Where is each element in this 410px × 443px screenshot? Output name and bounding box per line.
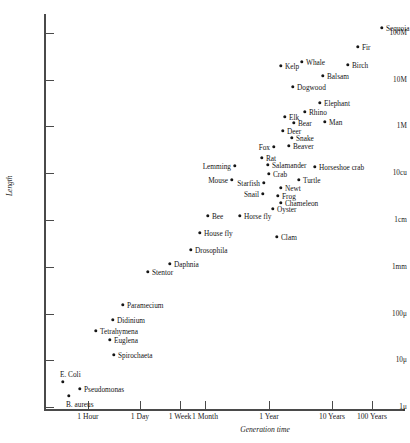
data-point-label: Horseshoe crab <box>319 163 364 172</box>
data-point <box>356 45 359 48</box>
data-point-label: Crab <box>273 170 287 179</box>
x-tick-mark <box>372 401 373 410</box>
data-point <box>67 394 70 397</box>
x-tick-label: 10 Years <box>319 412 345 421</box>
y-tick-label: 10μ <box>367 356 407 364</box>
data-point <box>297 178 300 181</box>
y-tick-label: 10M <box>367 76 407 84</box>
data-point <box>313 165 316 168</box>
data-point <box>283 115 286 118</box>
data-point <box>292 121 295 124</box>
data-point-label: Dogwood <box>297 83 326 92</box>
y-tick-mark <box>45 173 54 174</box>
x-tick-label: 1 Year <box>259 412 278 421</box>
data-point <box>94 329 97 332</box>
data-point <box>189 248 192 251</box>
y-tick-mark <box>45 80 54 81</box>
data-point <box>168 262 171 265</box>
data-point <box>276 194 279 197</box>
x-tick-label: 1 Hour <box>77 412 98 421</box>
data-point <box>323 120 326 123</box>
x-axis-line <box>44 409 405 411</box>
data-point-label: Snail <box>244 190 259 199</box>
data-point-label: Turtle <box>303 176 321 185</box>
data-point <box>346 63 349 66</box>
y-tick-mark <box>45 407 54 408</box>
data-point-label: Euglena <box>114 336 138 345</box>
data-point-label: Rhino <box>309 108 327 117</box>
x-tick-label: 1 Day <box>131 412 149 421</box>
data-point <box>230 178 233 181</box>
data-point <box>279 64 282 67</box>
data-point <box>303 110 306 113</box>
data-point <box>238 214 241 217</box>
data-point <box>266 163 269 166</box>
data-point <box>290 136 293 139</box>
data-point-label: Tetrahymena <box>100 327 138 336</box>
data-point-label: Salamander <box>272 161 306 170</box>
data-point-label: Pseudomonas <box>84 385 124 394</box>
data-point <box>108 338 111 341</box>
data-point <box>267 172 270 175</box>
data-point <box>112 353 115 356</box>
data-point <box>318 101 321 104</box>
data-point <box>260 156 263 159</box>
y-tick-label: 100μ <box>367 310 407 318</box>
data-point-label: Fir <box>362 43 371 52</box>
data-point <box>206 214 209 217</box>
y-tick-mark <box>45 360 54 361</box>
y-tick-label: 10cu <box>367 169 407 177</box>
data-point-label: B. aureus <box>66 400 94 409</box>
data-point-label: Starfish <box>237 179 260 188</box>
data-point-label: Paramecium <box>127 301 163 310</box>
data-point <box>78 387 81 390</box>
data-point-label: Stentor <box>152 268 173 277</box>
x-tick-mark <box>269 401 270 410</box>
data-point-label: Man <box>329 118 342 127</box>
data-point <box>262 181 265 184</box>
y-tick-label: 1mm <box>367 263 407 271</box>
data-point-label: Whale <box>306 58 325 67</box>
data-point <box>198 231 201 234</box>
y-tick-mark <box>45 220 54 221</box>
x-tick-label: 1 Week <box>169 412 192 421</box>
x-axis-title: Generation time <box>240 425 290 434</box>
y-tick-mark <box>45 314 54 315</box>
x-tick-label: 100 Years <box>357 412 387 421</box>
data-point <box>61 380 64 383</box>
x-tick-mark <box>180 401 181 410</box>
data-point-label: Oyster <box>277 205 296 214</box>
x-tick-mark <box>332 401 333 410</box>
data-point <box>146 270 149 273</box>
data-point-label: Mouse <box>208 176 228 185</box>
data-point-label: Drosophila <box>195 246 227 255</box>
data-point-label: Daphnia <box>174 260 199 269</box>
data-point-label: Clam <box>281 233 297 242</box>
x-tick-mark <box>205 401 206 410</box>
data-point <box>321 74 324 77</box>
data-point-label: Didinium <box>117 316 145 325</box>
data-point-label: Birch <box>352 61 368 70</box>
data-point <box>111 318 114 321</box>
data-point-label: Bee <box>212 212 223 221</box>
data-point <box>291 85 294 88</box>
data-point <box>233 164 236 167</box>
data-point-label: Elephant <box>324 99 350 108</box>
x-tick-mark <box>140 401 141 410</box>
data-point-label: Beaver <box>293 142 314 151</box>
data-point <box>300 60 303 63</box>
data-point <box>261 192 264 195</box>
y-axis-title: Length <box>5 175 14 196</box>
data-point <box>272 145 275 148</box>
y-tick-mark <box>45 126 54 127</box>
data-point <box>275 235 278 238</box>
data-point-label: Sequoia <box>386 24 410 33</box>
data-point <box>271 207 274 210</box>
data-point-label: House fly <box>204 229 233 238</box>
data-point <box>121 303 124 306</box>
x-tick-label: 1 Month <box>192 412 218 421</box>
y-tick-mark <box>45 33 54 34</box>
data-point-label: Balsam <box>327 72 349 81</box>
data-point-label: Kelp <box>285 62 299 71</box>
